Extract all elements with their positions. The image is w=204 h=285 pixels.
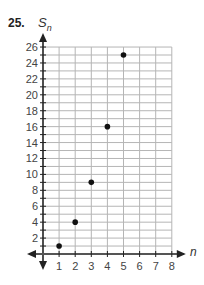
x-tick-label: 3 xyxy=(88,260,94,272)
y-tick-label: 4 xyxy=(32,216,38,228)
grid-lines xyxy=(43,47,172,254)
y-tick-label: 10 xyxy=(26,168,38,180)
data-point xyxy=(89,180,95,186)
x-tick-label: 4 xyxy=(104,260,110,272)
data-point xyxy=(72,219,78,225)
y-tick-label: 6 xyxy=(32,200,38,212)
data-point xyxy=(121,52,127,58)
y-tick-label: 26 xyxy=(26,41,38,53)
arrow-up-icon xyxy=(39,33,47,42)
arrow-right-icon xyxy=(177,250,186,258)
y-tick-label: 14 xyxy=(26,137,38,149)
x-tick-label: 2 xyxy=(72,260,78,272)
x-tick-label: 1 xyxy=(56,260,62,272)
x-tick-label: 7 xyxy=(153,260,159,272)
data-point xyxy=(56,243,62,249)
y-tick-label: 18 xyxy=(26,105,38,117)
y-tick-label: 22 xyxy=(26,73,38,85)
y-tick-label: 20 xyxy=(26,89,38,101)
tick-labels: 246810121416182022242612345678 xyxy=(26,41,175,272)
x-tick-label: 6 xyxy=(137,260,143,272)
scatter-chart: 246810121416182022242612345678 xyxy=(0,0,204,285)
y-tick-label: 12 xyxy=(26,152,38,164)
y-tick-label: 24 xyxy=(26,57,38,69)
y-tick-label: 2 xyxy=(32,232,38,244)
x-tick-label: 8 xyxy=(169,260,175,272)
x-tick-label: 5 xyxy=(120,260,126,272)
y-tick-label: 16 xyxy=(26,121,38,133)
y-tick-label: 8 xyxy=(32,184,38,196)
axes xyxy=(27,33,186,270)
arrow-down-icon xyxy=(39,261,47,270)
arrow-left-icon xyxy=(27,250,36,258)
data-point xyxy=(105,124,111,130)
